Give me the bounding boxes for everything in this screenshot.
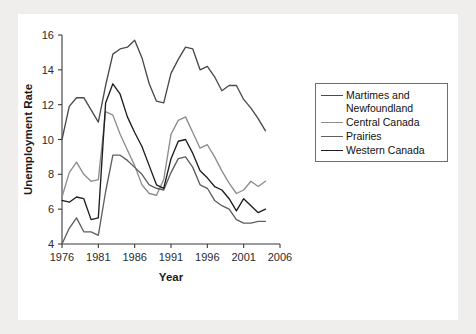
- series-line-2: [62, 155, 265, 244]
- y-tick-label: 8: [48, 168, 54, 180]
- x-tick-label: 1986: [122, 251, 146, 263]
- legend-item-label: Western Canada: [346, 144, 425, 157]
- legend-line-swatch: [321, 89, 343, 102]
- y-axis-title: Unemployment Rate: [22, 84, 34, 195]
- y-tick-label: 10: [42, 134, 54, 146]
- legend-item-0: Martimes and Newfoundland: [321, 89, 443, 115]
- series-line-0: [62, 40, 265, 139]
- legend-item-3: Western Canada: [321, 144, 443, 157]
- x-tick-label: 1981: [86, 251, 110, 263]
- x-tick-label: 1991: [159, 251, 183, 263]
- y-tick-label: 12: [42, 99, 54, 111]
- legend-line-swatch: [321, 144, 343, 157]
- y-tick-label: 6: [48, 203, 54, 215]
- chart-legend: Martimes and NewfoundlandCentral CanadaP…: [315, 83, 448, 162]
- legend-line-swatch: [321, 116, 343, 129]
- legend-item-label: Martimes and Newfoundland: [346, 89, 413, 115]
- x-tick-label: 1996: [195, 251, 219, 263]
- y-tick-label: 16: [42, 29, 54, 41]
- y-tick-label: 14: [42, 64, 54, 76]
- chart-canvas: 468101214161976198119861991199620012006Y…: [18, 14, 458, 320]
- x-tick-label: 2006: [268, 251, 292, 263]
- legend-item-2: Prairies: [321, 130, 443, 143]
- series-line-1: [62, 112, 265, 197]
- legend-line-swatch: [321, 130, 343, 143]
- line-chart: 468101214161976198119861991199620012006Y…: [18, 14, 458, 320]
- y-tick-label: 4: [48, 238, 54, 250]
- x-tick-label: 2001: [231, 251, 255, 263]
- legend-item-label: Central Canada: [346, 116, 420, 129]
- x-tick-label: 1976: [50, 251, 74, 263]
- series-line-3: [62, 84, 265, 220]
- x-axis-title: Year: [159, 271, 184, 283]
- legend-item-1: Central Canada: [321, 116, 443, 129]
- figure-panel: 468101214161976198119861991199620012006Y…: [18, 14, 458, 320]
- legend-item-label: Prairies: [346, 130, 382, 143]
